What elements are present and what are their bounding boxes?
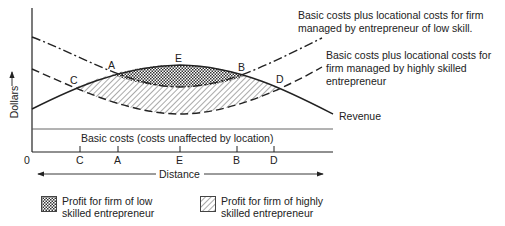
point-label-c: C: [70, 74, 78, 86]
x-ticks: [80, 146, 274, 152]
point-label-d: D: [276, 73, 284, 85]
label-high-skill-line-2: firm managed by highly skilled: [326, 62, 491, 75]
tick-label-e: E: [176, 154, 183, 166]
tick-label-b: B: [233, 154, 240, 166]
point-label-b: B: [238, 61, 245, 73]
point-label-e: E: [175, 52, 182, 64]
diagonal-hatch-swatch-icon: [200, 196, 216, 212]
crosshatch-swatch-icon: [41, 196, 57, 212]
y-axis-label: Dollars: [8, 82, 20, 122]
tick-label-a: A: [114, 154, 121, 166]
label-high-skill-line-3: entrepreneur: [326, 75, 491, 88]
label-low-skill-cost: Basic costs plus locational costs for fi…: [298, 9, 484, 35]
label-high-skill-cost: Basic costs plus locational costs for fi…: [326, 49, 491, 88]
legend-low-skill-line-1: Profit for firm of low: [62, 195, 154, 207]
tick-label-d: D: [270, 154, 278, 166]
label-low-skill-line-2: managed by entrepreneur of low skill.: [298, 22, 484, 35]
tick-label-c: C: [76, 154, 84, 166]
legend-high-skill-line-1: Profit for firm of highly: [221, 195, 323, 207]
legend-low-skill-line-2: skilled entrepreneur: [62, 207, 154, 219]
legend-low-skill: Profit for firm of low skilled entrepren…: [41, 195, 154, 219]
label-basic-costs: Basic costs (costs unaffected by locatio…: [81, 132, 273, 144]
x-axis-label: Distance: [159, 168, 200, 180]
legend-high-skill: Profit for firm of highly skilled entrep…: [200, 195, 323, 219]
label-low-skill-line-1: Basic costs plus locational costs for fi…: [298, 9, 484, 22]
legend-high-skill-line-2: skilled entrepreneur: [221, 207, 323, 219]
legend-high-skill-text: Profit for firm of highly skilled entrep…: [221, 195, 323, 219]
legend-low-skill-text: Profit for firm of low skilled entrepren…: [62, 195, 154, 219]
point-label-a: A: [108, 59, 115, 71]
origin-label: 0: [24, 154, 30, 166]
label-high-skill-line-1: Basic costs plus locational costs for: [326, 49, 491, 62]
label-revenue: Revenue: [339, 110, 381, 122]
